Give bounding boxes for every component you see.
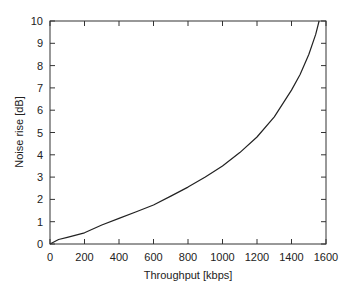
y-tick-label: 10 bbox=[31, 15, 43, 27]
x-tick-label: 0 bbox=[47, 251, 53, 263]
x-tick-label: 800 bbox=[179, 251, 197, 263]
x-axis-label: Throughput [kbps] bbox=[144, 269, 233, 281]
y-tick-label: 4 bbox=[37, 149, 43, 161]
y-tick-label: 8 bbox=[37, 60, 43, 72]
x-tick-label: 1200 bbox=[245, 251, 269, 263]
x-tick-label: 1400 bbox=[279, 251, 303, 263]
x-tick-label: 1600 bbox=[314, 251, 338, 263]
x-tick-label: 600 bbox=[144, 251, 162, 263]
y-tick-label: 5 bbox=[37, 127, 43, 139]
x-tick-label: 400 bbox=[110, 251, 128, 263]
y-tick-label: 7 bbox=[37, 82, 43, 94]
x-tick-label: 200 bbox=[75, 251, 93, 263]
y-tick-label: 9 bbox=[37, 37, 43, 49]
y-tick-label: 6 bbox=[37, 104, 43, 116]
y-tick-label: 0 bbox=[37, 238, 43, 250]
y-tick-label: 3 bbox=[37, 171, 43, 183]
x-axis: 02004006008001000120014001600 bbox=[47, 21, 338, 263]
chart: 02004006008001000120014001600 0123456789… bbox=[0, 0, 347, 297]
data-line bbox=[50, 21, 319, 244]
plot-frame bbox=[50, 21, 326, 244]
y-tick-label: 1 bbox=[37, 216, 43, 228]
y-tick-label: 2 bbox=[37, 193, 43, 205]
plot-area bbox=[50, 21, 326, 244]
x-tick-label: 1000 bbox=[210, 251, 234, 263]
y-axis: 012345678910 bbox=[31, 15, 326, 250]
y-axis-label: Noise rise [dB] bbox=[13, 96, 25, 168]
